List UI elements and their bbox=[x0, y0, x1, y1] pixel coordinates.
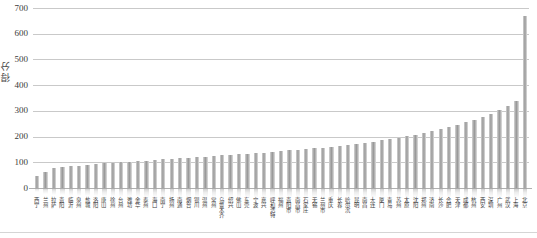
bar-slot[interactable] bbox=[489, 8, 493, 188]
bar[interactable] bbox=[397, 138, 401, 188]
bar-slot[interactable] bbox=[346, 8, 350, 188]
bar-slot[interactable] bbox=[405, 8, 409, 188]
bar-slot[interactable] bbox=[170, 8, 174, 188]
bar-slot[interactable] bbox=[228, 8, 232, 188]
bar[interactable] bbox=[329, 147, 333, 188]
bar[interactable] bbox=[170, 159, 174, 188]
bar-slot[interactable] bbox=[203, 8, 207, 188]
bar-slot[interactable] bbox=[514, 8, 518, 188]
bar[interactable] bbox=[287, 150, 291, 188]
bar-slot[interactable] bbox=[371, 8, 375, 188]
bar-slot[interactable] bbox=[60, 8, 64, 188]
bar-slot[interactable] bbox=[523, 8, 527, 188]
bar[interactable] bbox=[35, 176, 39, 188]
bar[interactable] bbox=[111, 163, 115, 188]
bar[interactable] bbox=[430, 131, 434, 188]
bar[interactable] bbox=[161, 159, 165, 188]
bar-slot[interactable] bbox=[354, 8, 358, 188]
bar-slot[interactable] bbox=[312, 8, 316, 188]
bar-slot[interactable] bbox=[279, 8, 283, 188]
bar-slot[interactable] bbox=[52, 8, 56, 188]
bar-slot[interactable] bbox=[506, 8, 510, 188]
bar-slot[interactable] bbox=[430, 8, 434, 188]
bar-slot[interactable] bbox=[245, 8, 249, 188]
bar[interactable] bbox=[506, 106, 510, 188]
bar[interactable] bbox=[144, 161, 148, 189]
bar[interactable] bbox=[127, 162, 131, 188]
bar-slot[interactable] bbox=[287, 8, 291, 188]
bar[interactable] bbox=[497, 110, 501, 188]
bar[interactable] bbox=[119, 162, 123, 188]
bar[interactable] bbox=[270, 152, 274, 188]
bar-slot[interactable] bbox=[497, 8, 501, 188]
bar-slot[interactable] bbox=[338, 8, 342, 188]
bar-slot[interactable] bbox=[85, 8, 89, 188]
bar-slot[interactable] bbox=[262, 8, 266, 188]
bar[interactable] bbox=[514, 101, 518, 188]
bar-slot[interactable] bbox=[102, 8, 106, 188]
bar[interactable] bbox=[195, 157, 199, 188]
bar-slot[interactable] bbox=[254, 8, 258, 188]
bar-slot[interactable] bbox=[304, 8, 308, 188]
bar-slot[interactable] bbox=[321, 8, 325, 188]
bar-slot[interactable] bbox=[464, 8, 468, 188]
bar[interactable] bbox=[388, 139, 392, 188]
bar[interactable] bbox=[279, 151, 283, 188]
bar[interactable] bbox=[77, 166, 81, 188]
bar[interactable] bbox=[481, 117, 485, 188]
bar-slot[interactable] bbox=[363, 8, 367, 188]
bar-slot[interactable] bbox=[270, 8, 274, 188]
bar-slot[interactable] bbox=[77, 8, 81, 188]
bar-slot[interactable] bbox=[296, 8, 300, 188]
bar[interactable] bbox=[136, 161, 140, 188]
bar[interactable] bbox=[186, 158, 190, 188]
bar[interactable] bbox=[52, 168, 56, 188]
bar-slot[interactable] bbox=[397, 8, 401, 188]
bar[interactable] bbox=[94, 164, 98, 188]
bar-slot[interactable] bbox=[136, 8, 140, 188]
bar-slot[interactable] bbox=[144, 8, 148, 188]
bar[interactable] bbox=[422, 133, 426, 188]
bar-slot[interactable] bbox=[153, 8, 157, 188]
bar-slot[interactable] bbox=[69, 8, 73, 188]
bar[interactable] bbox=[321, 148, 325, 188]
bar-slot[interactable] bbox=[455, 8, 459, 188]
bar-slot[interactable] bbox=[380, 8, 384, 188]
bar[interactable] bbox=[262, 153, 266, 188]
bar[interactable] bbox=[69, 166, 73, 188]
bar-slot[interactable] bbox=[481, 8, 485, 188]
bar-slot[interactable] bbox=[472, 8, 476, 188]
bar[interactable] bbox=[254, 153, 258, 188]
bar-slot[interactable] bbox=[329, 8, 333, 188]
bar[interactable] bbox=[338, 146, 342, 188]
bar[interactable] bbox=[489, 114, 493, 188]
bar[interactable] bbox=[203, 157, 207, 188]
bar[interactable] bbox=[464, 122, 468, 188]
bar[interactable] bbox=[363, 143, 367, 188]
bar-slot[interactable] bbox=[94, 8, 98, 188]
bar-slot[interactable] bbox=[422, 8, 426, 188]
bar[interactable] bbox=[228, 155, 232, 188]
bar-slot[interactable] bbox=[237, 8, 241, 188]
bar-slot[interactable] bbox=[212, 8, 216, 188]
bar-slot[interactable] bbox=[220, 8, 224, 188]
bar[interactable] bbox=[405, 136, 409, 188]
bar-slot[interactable] bbox=[447, 8, 451, 188]
bar[interactable] bbox=[237, 154, 241, 188]
bar[interactable] bbox=[371, 142, 375, 188]
bar[interactable] bbox=[43, 172, 47, 188]
bar[interactable] bbox=[85, 165, 89, 188]
bar[interactable] bbox=[102, 163, 106, 188]
bar-slot[interactable] bbox=[111, 8, 115, 188]
bar[interactable] bbox=[354, 144, 358, 188]
bar-slot[interactable] bbox=[195, 8, 199, 188]
bar[interactable] bbox=[523, 16, 527, 188]
bar-slot[interactable] bbox=[161, 8, 165, 188]
bar-slot[interactable] bbox=[186, 8, 190, 188]
bar-slot[interactable] bbox=[43, 8, 47, 188]
bar[interactable] bbox=[413, 135, 417, 188]
bar[interactable] bbox=[455, 125, 459, 189]
bar[interactable] bbox=[312, 148, 316, 188]
bar[interactable] bbox=[380, 140, 384, 188]
bar[interactable] bbox=[212, 156, 216, 188]
